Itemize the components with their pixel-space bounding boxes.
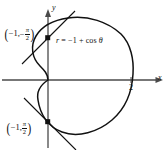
point-label-top: (−1,−π2) bbox=[4, 27, 35, 42]
marked-point-bottom bbox=[45, 119, 50, 124]
paren-close-top: ) bbox=[30, 29, 34, 40]
equation-rhs-sign: −1 bbox=[68, 36, 77, 45]
point-top-fraction: π2 bbox=[25, 27, 30, 42]
equation-label: r = −1 + cos θ bbox=[56, 37, 103, 45]
point-bottom-denominator: 2 bbox=[22, 128, 27, 136]
point-bottom-numerator: π bbox=[22, 121, 27, 128]
polar-cardioid-figure: y x 2 r = −1 + cos θ (−1,−π2) (−1,π2) bbox=[0, 0, 168, 150]
equation-cos: cos bbox=[86, 36, 97, 45]
point-bottom-radius: −1 bbox=[11, 122, 20, 132]
x-axis-label: x bbox=[158, 74, 162, 82]
paren-open-top: ( bbox=[4, 29, 8, 40]
point-bottom-fraction: π2 bbox=[22, 121, 27, 136]
x-tick-label-2: 2 bbox=[129, 84, 133, 92]
x-axis bbox=[2, 77, 163, 83]
y-axis-label: y bbox=[52, 4, 56, 12]
point-top-numerator: π bbox=[25, 27, 30, 34]
paren-close-bottom: ) bbox=[28, 123, 32, 134]
point-label-bottom: (−1,π2) bbox=[6, 121, 32, 136]
point-top-denominator: 2 bbox=[25, 34, 30, 42]
equation-theta: θ bbox=[99, 36, 103, 45]
point-top-radius: −1 bbox=[9, 28, 18, 38]
paren-open-bottom: ( bbox=[6, 123, 10, 134]
marked-point-top bbox=[45, 35, 50, 40]
